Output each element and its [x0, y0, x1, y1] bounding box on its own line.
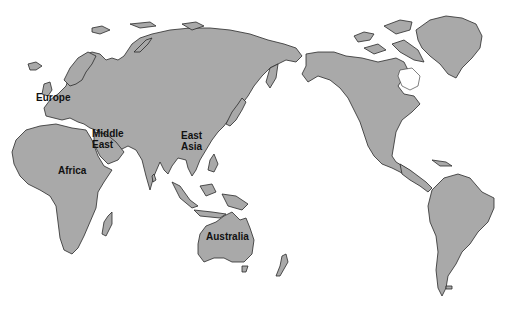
- landmass-canadian-arctic: [354, 20, 424, 62]
- landmass-sri-lanka: [152, 174, 156, 182]
- world-map: [0, 0, 508, 313]
- landmass-tasmania: [242, 266, 248, 272]
- label-east-asia-line2: Asia: [181, 141, 202, 152]
- label-australia: Australia: [206, 231, 249, 242]
- label-middle-east-line1: Middle: [92, 128, 124, 139]
- landmass-indonesia: [172, 154, 248, 218]
- label-europe: Europe: [36, 92, 70, 103]
- hudson-bay: [398, 68, 420, 90]
- landmass-new-zealand: [276, 254, 288, 276]
- landmass-iceland: [28, 62, 42, 70]
- landmass-falklands: [446, 286, 452, 289]
- label-middle-east-line2: East: [92, 139, 113, 150]
- landmass-south-america: [428, 174, 494, 296]
- label-east-asia-line1: East: [181, 130, 202, 141]
- label-africa: Africa: [58, 165, 86, 176]
- landmass-greenland: [416, 16, 482, 78]
- landmass-madagascar: [102, 212, 112, 236]
